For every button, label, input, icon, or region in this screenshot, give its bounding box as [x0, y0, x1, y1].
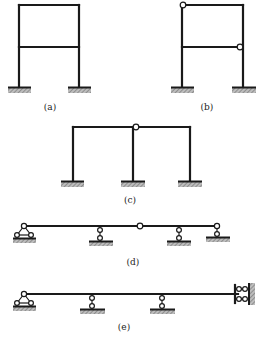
- beam-e: (e): [13, 283, 255, 332]
- caption-a: (a): [44, 102, 56, 112]
- hinge-icon: [133, 124, 139, 130]
- roller-support-icon: [167, 226, 191, 246]
- caption-e: (e): [118, 322, 130, 332]
- frame-a: (a): [8, 5, 91, 112]
- fixed-support-icon: [178, 182, 202, 188]
- hinge-icon: [137, 223, 143, 229]
- roller-support-icon: [150, 294, 175, 314]
- beam-d: (d): [13, 223, 230, 267]
- structural-diagrams-canvas: (a) (b): [0, 0, 261, 349]
- roller-support-icon: [80, 294, 105, 314]
- caption-b: (b): [201, 102, 214, 112]
- caption-c: (c): [124, 195, 136, 205]
- frame-b: (b): [171, 2, 256, 112]
- frame-c: (c): [61, 124, 202, 205]
- fixed-support-icon: [61, 182, 84, 188]
- fixed-support-icon: [68, 88, 91, 94]
- fixed-support-icon: [8, 88, 31, 94]
- caption-d: (d): [127, 257, 140, 267]
- hinge-icon: [180, 2, 186, 8]
- fixed-support-icon: [171, 88, 194, 94]
- fixed-support-icon: [232, 88, 256, 94]
- fixed-support-icon: [121, 182, 145, 188]
- roller-support-icon: [89, 226, 113, 246]
- hinge-icon: [237, 44, 243, 50]
